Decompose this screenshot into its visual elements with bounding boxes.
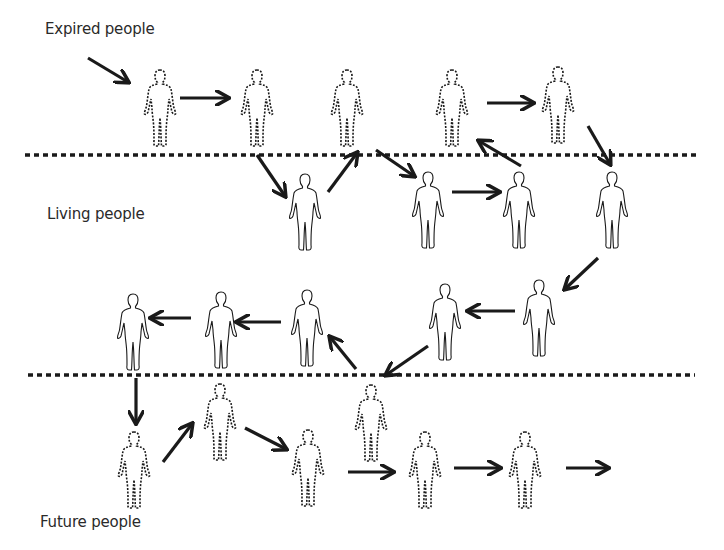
living-person-icon — [429, 284, 460, 360]
future-person-icon — [509, 432, 540, 508]
arrow-icon — [565, 258, 598, 289]
generations-diagram — [0, 0, 724, 550]
future-person-icon — [409, 432, 440, 508]
living-person-icon — [205, 292, 236, 368]
arrow-icon — [88, 58, 128, 82]
expired-person-icon — [542, 67, 573, 143]
living-person-icon — [596, 172, 627, 248]
living-person-icon — [289, 174, 320, 250]
arrow-icon — [386, 346, 428, 375]
expired-person-icon — [144, 70, 175, 146]
expired-person-icon — [331, 70, 362, 146]
living-person-icon — [291, 290, 322, 366]
living-person-icon — [523, 280, 554, 356]
arrow-icon — [328, 153, 357, 192]
living-person-icon — [117, 294, 148, 370]
future-person-icon — [355, 385, 386, 461]
living-person-icon — [503, 172, 534, 248]
arrow-icon — [257, 155, 285, 196]
expired-person-icon — [436, 70, 467, 146]
expired-person-icon — [241, 70, 272, 146]
arrow-icon — [163, 424, 192, 462]
future-person-icon — [204, 384, 235, 460]
arrow-icon — [588, 126, 610, 164]
arrow-icon — [330, 337, 356, 369]
living-person-icon — [412, 172, 443, 248]
future-person-icon — [118, 432, 149, 508]
future-person-icon — [292, 430, 323, 506]
figures-group — [117, 67, 627, 508]
arrow-icon — [245, 428, 286, 449]
